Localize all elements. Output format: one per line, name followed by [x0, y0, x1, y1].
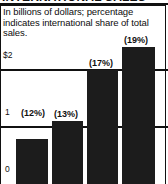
y-tick-label-2: $2	[1, 51, 13, 60]
bar-4	[122, 47, 155, 184]
y-tick-label-0: 0	[3, 165, 11, 174]
bar-label-3: (17%)	[88, 58, 114, 68]
plot-area: $2 1 0 (12%) (13%) (17%) (19%)	[0, 5, 168, 184]
bar-label-4: (19%)	[123, 35, 149, 45]
y-tick-label-1: 1	[3, 108, 11, 117]
chart-figure: INTERNATIONAL SALES In billions of dolla…	[0, 0, 168, 184]
bar-1	[16, 139, 48, 184]
bar-label-1: (12%)	[20, 108, 46, 118]
bar-label-2: (13%)	[53, 109, 79, 119]
bar-2	[52, 121, 83, 184]
bar-3	[87, 70, 118, 184]
